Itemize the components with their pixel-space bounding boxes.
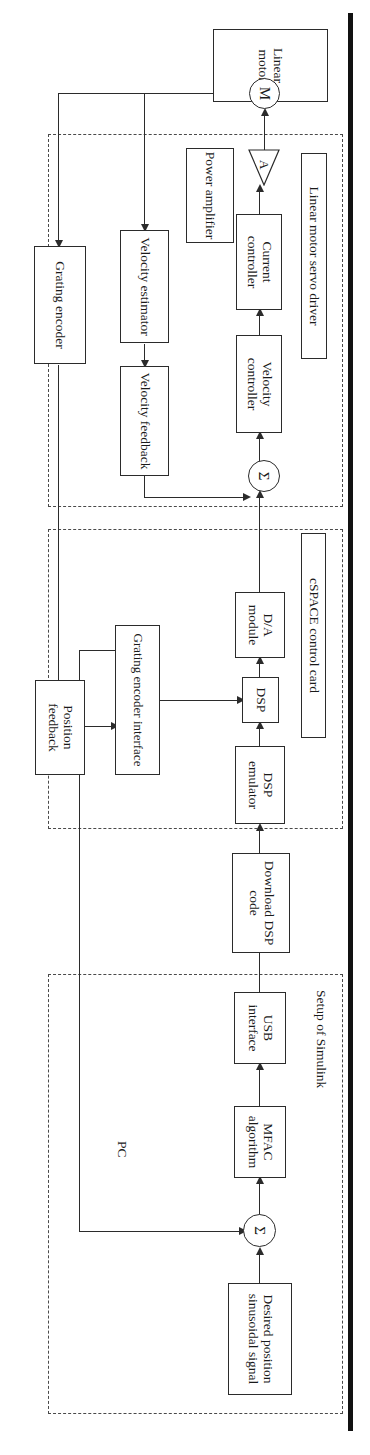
block-power-amplifier: Power amplifier [186,148,234,243]
block-label: Desired position sinusoidal signal [245,1286,274,1392]
node-motor-symbol: M [249,78,280,109]
arrow-velocity-feedback-to-sum [243,493,251,501]
link-interface-to-pc-v1 [79,650,115,651]
block-velocity-feedback: Velocity feedback [120,366,169,476]
block-dsp: DSP [242,677,279,723]
block-label: D/A module [245,595,274,655]
block-desired-position-signal: Desired position sinusoidal signal [228,1283,292,1395]
label-pc: PC [114,1141,130,1158]
link-mfac-to-usb [259,1065,260,1107]
node-sum-velocity: Σ [248,460,280,492]
block-usb-interface: USB interface [234,992,286,1064]
group-pc [48,974,343,1414]
group-label-text: cSPACE control card [306,578,321,693]
label-setup-of-simulink: Setup of Simulink [313,990,329,1088]
link-velocity-feedback-to-sum-h [144,475,145,498]
block-label: Grating encoder [53,261,68,348]
figure-page: Linear motor servo driver cSPACE control… [0,0,370,1455]
block-grating-encoder: Grating encoder [34,246,86,364]
block-label: Grating encoder interface [130,633,144,766]
block-label: DSP [253,687,268,712]
block-da-module: D/A module [235,592,285,658]
block-diagram: Linear motor servo driver cSPACE control… [5,8,365,1448]
block-label: Power amplifier [203,151,218,238]
block-position-feedback: Position feedback [35,680,85,775]
link-amplifier-to-motor [264,111,265,150]
block-label: USB interface [245,995,274,1061]
link-grating-encoder-to-position-feedback [58,365,59,725]
page-edge-rule [348,13,353,1431]
block-download-dsp-code: Download DSP code [232,853,290,953]
node-amplifier-symbol: A [248,149,280,186]
node-sum-position: Σ [243,1214,276,1247]
group-label-text: Linear motor servo driver [307,186,322,325]
node-label: Σ [251,1226,268,1235]
link-da-to-sum-velocity [259,493,260,593]
block-grating-encoder-interface: Grating encoder interface [115,625,160,775]
link-sum-to-mfac [259,1179,260,1216]
group-label-linear-motor-servo-driver: Linear motor servo driver [301,153,327,359]
group-label-cspace-control-card: cSPACE control card [301,533,326,738]
block-label: Position feedback [45,683,74,772]
group-cspace-control-card [48,529,343,829]
arrow-desired-to-sum [256,1247,264,1255]
block-label: Velocity feedback [137,372,152,469]
link-velocity-feedback-to-sum-v [144,497,247,498]
link-motor-to-velocity-estimator-branch [144,93,145,231]
link-interface-to-pc-v2 [79,1231,243,1232]
block-label: Velocity controller [244,338,273,430]
node-label: A [248,149,280,186]
block-velocity-controller: Velocity controller [236,335,282,433]
node-label: Σ [256,471,273,480]
block-label: Download DSP code [246,856,275,950]
block-velocity-estimator: Velocity estimator [120,230,169,343]
block-label: DSP emulator [245,749,274,821]
block-current-controller: Current controller [236,214,282,310]
block-label: Velocity estimator [137,237,152,336]
block-label: MFAC algorithm [245,1109,274,1175]
block-dsp-emulator: DSP emulator [235,746,285,824]
block-mfac-algorithm: MFAC algorithm [234,1106,286,1178]
link-interface-to-dsp-v [159,700,240,701]
node-label: M [256,86,273,99]
block-label: Current controller [244,217,273,307]
